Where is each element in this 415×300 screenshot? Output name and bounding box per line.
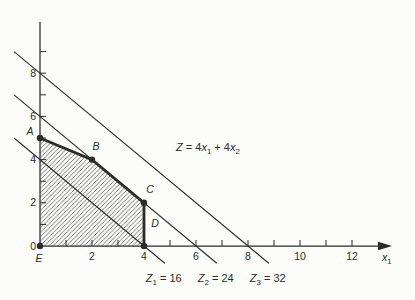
x-tick-label-6: 6 (193, 250, 199, 262)
x-tick-label-4: 4 (141, 250, 147, 262)
objective-function-label-part: 2 (235, 147, 239, 156)
iso-label-Z3: Z3 = 32 (249, 272, 286, 287)
objective-function-label: Z = 4x1 + 4x2 (175, 141, 240, 156)
iso-label-Z1-part: = 16 (157, 272, 182, 284)
vertex-dot-B (89, 156, 95, 162)
vertex-dot-A (37, 135, 43, 141)
x-tick-label-8: 8 (245, 250, 251, 262)
iso-label-Z2-part: = 24 (209, 272, 234, 284)
y-tick-label-4: 4 (30, 153, 36, 165)
vertex-dot-D (141, 243, 147, 249)
x-tick-label-2: 2 (89, 250, 95, 262)
iso-label-Z3-part: = 32 (261, 272, 286, 284)
vertex-label-B: B (92, 140, 99, 152)
vertex-dot-C (141, 200, 147, 206)
y-tick-label-0: 0 (30, 240, 36, 252)
lp-plot-svg: Z1 = 16Z2 = 24Z3 = 322468101202468ABCDEZ… (0, 0, 415, 300)
x-axis-label-part: 1 (387, 257, 391, 266)
lp-graph-figure: Z1 = 16Z2 = 24Z3 = 322468101202468ABCDEZ… (0, 0, 415, 300)
vertex-label-E: E (35, 252, 43, 264)
feasible-region (40, 138, 144, 246)
vertex-label-C: C (146, 183, 154, 195)
vertex-dot-E (37, 243, 43, 249)
vertex-label-A: A (25, 125, 33, 137)
x-tick-label-10: 10 (294, 250, 306, 262)
objective-function-label-part: + 4 (211, 141, 230, 153)
x-axis-arrow (378, 242, 392, 250)
iso-label-Z2: Z2 = 24 (197, 272, 234, 287)
iso-label-Z1: Z1 = 16 (145, 272, 182, 287)
y-tick-label-2: 2 (30, 196, 36, 208)
x-tick-label-12: 12 (346, 250, 358, 262)
objective-function-label-part: = 4 (183, 141, 202, 153)
vertex-label-D: D (151, 217, 159, 229)
y-tick-label-6: 6 (30, 110, 36, 122)
y-tick-label-8: 8 (30, 67, 36, 79)
x-axis-label: x1 (381, 251, 391, 266)
